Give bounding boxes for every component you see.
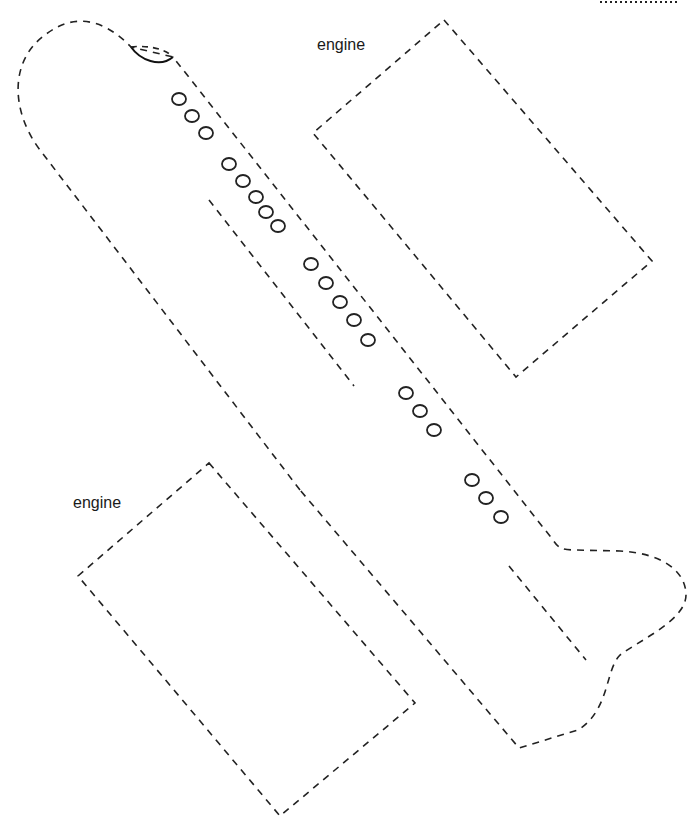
engine-label-bottom: engine	[73, 494, 121, 512]
engine-top-outline	[313, 20, 652, 377]
tail-slot-line	[509, 566, 586, 660]
airplane-cutout-template	[0, 0, 693, 826]
wing-slot-line	[209, 200, 354, 386]
engine-bottom-outline	[78, 463, 415, 816]
cockpit-window	[131, 47, 173, 62]
fuselage-outline	[18, 21, 686, 748]
engine-label-top: engine	[317, 36, 365, 54]
